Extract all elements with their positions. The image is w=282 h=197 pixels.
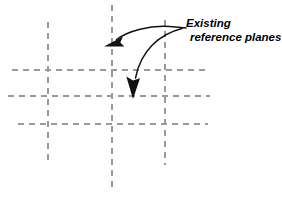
callout-label: Existing reference planes	[186, 17, 282, 44]
callout-label-line-1: Existing	[186, 17, 282, 31]
leader-arrow-lower-curve	[136, 29, 183, 79]
leader-arrow-upper	[104, 26, 186, 46]
leader-arrow-lower	[126, 29, 182, 100]
grid-vertical-lines	[48, 5, 165, 190]
grid-horizontal-lines	[8, 70, 210, 124]
figure-canvas: Existing reference planes	[0, 0, 282, 197]
callout-label-line-2: reference planes	[186, 31, 282, 45]
leader-arrow-upper-curve	[117, 26, 187, 39]
leader-arrow-upper-head	[104, 36, 124, 46]
leader-arrow-lower-head	[126, 77, 140, 100]
